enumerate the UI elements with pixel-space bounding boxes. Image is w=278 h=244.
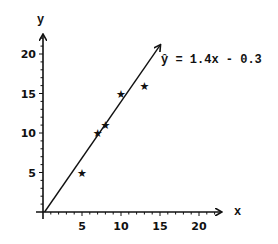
y-axis-ticks: 5101520 bbox=[21, 38, 43, 204]
data-point-star: ★ bbox=[139, 80, 149, 93]
x-axis-ticks: 5101520 bbox=[51, 212, 215, 233]
y-axis-label: y bbox=[37, 13, 44, 27]
x-axis-label: x bbox=[234, 205, 241, 219]
data-point-star: ★ bbox=[77, 167, 87, 180]
regression-equation: ŷ = 1.4x - 0.3 bbox=[161, 53, 262, 67]
y-tick-label: 5 bbox=[28, 167, 36, 180]
data-point-star: ★ bbox=[116, 88, 126, 101]
x-tick-label: 5 bbox=[78, 220, 86, 233]
x-tick-label: 20 bbox=[191, 220, 207, 233]
x-tick-label: 10 bbox=[113, 220, 129, 233]
scatter-chart: 5101520 5101520 x y ŷ = 1.4x - 0.3 ★★★★★ bbox=[0, 0, 278, 244]
data-points: ★★★★★ bbox=[77, 80, 149, 180]
y-tick-label: 20 bbox=[21, 48, 37, 61]
x-tick-label: 15 bbox=[152, 220, 167, 233]
data-point-star: ★ bbox=[100, 119, 110, 132]
y-tick-label: 10 bbox=[21, 127, 37, 140]
y-tick-label: 15 bbox=[21, 88, 36, 101]
